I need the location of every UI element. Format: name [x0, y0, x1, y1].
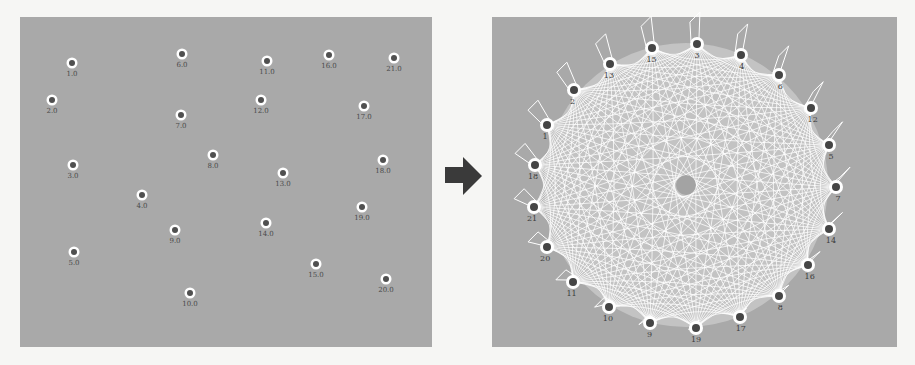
graph-node-label: 14: [826, 236, 836, 245]
graph-node: 19: [689, 320, 703, 344]
graph-node-label: 18: [528, 172, 538, 181]
graph-node-label: 9: [647, 330, 652, 339]
graph-node-label: 17: [736, 324, 746, 333]
graph-node-label: 8: [778, 303, 783, 312]
graph-node-label: 11: [566, 289, 576, 298]
network-graph-plot: 346125714168171991011202118121315: [0, 0, 915, 365]
graph-node-label: 3: [695, 51, 700, 60]
graph-node-label: 12: [808, 115, 818, 124]
graph-node-label: 21: [527, 214, 537, 223]
graph-node-label: 6: [778, 82, 783, 91]
graph-node-label: 5: [828, 152, 833, 161]
graph-node: 7: [829, 167, 850, 203]
graph-node-label: 19: [691, 335, 701, 344]
graph-node-label: 2: [570, 97, 575, 106]
graph-node-label: 7: [835, 194, 840, 203]
graph-node: 12: [804, 82, 823, 124]
graph-node-label: 10: [603, 314, 613, 323]
graph-node: 21: [514, 189, 541, 223]
graph-node-label: 20: [540, 254, 550, 263]
graph-center: [676, 175, 696, 195]
graph-node-label: 4: [739, 62, 744, 71]
graph-node: 18: [515, 143, 542, 181]
graph-node-label: 13: [604, 71, 614, 80]
graph-node-label: 1: [543, 132, 548, 141]
graph-node-label: 16: [805, 272, 815, 281]
graph-node-label: 15: [646, 55, 656, 64]
